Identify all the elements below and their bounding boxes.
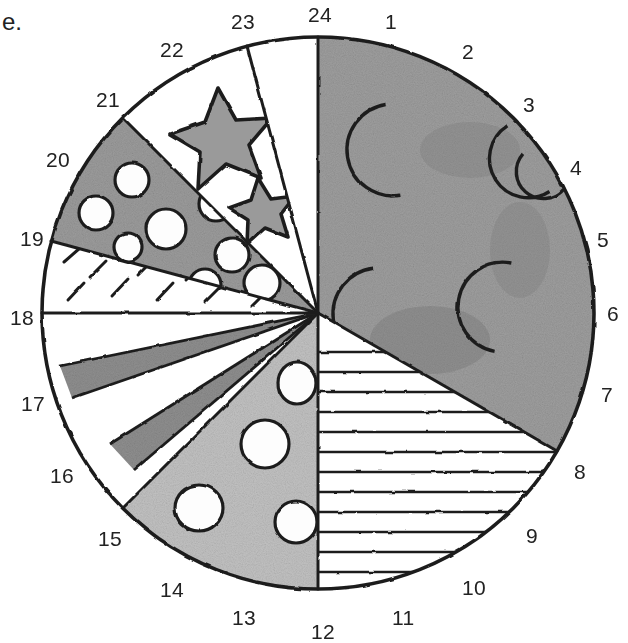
tick-label-3: 3 [523,93,535,117]
tick-label-22: 22 [160,38,184,62]
tick-label-9: 9 [526,524,538,548]
tick-label-24: 24 [308,3,332,27]
tick-label-10: 10 [462,576,486,600]
tick-label-7: 7 [601,383,613,407]
dot-icon [241,420,289,468]
tick-label-12: 12 [311,620,335,643]
tick-label-20: 20 [46,148,70,172]
tick-label-2: 2 [462,40,474,64]
tick-label-5: 5 [597,228,609,252]
tick-label-14: 14 [160,578,184,602]
tick-label-8: 8 [574,460,586,484]
dot-icon [278,362,316,404]
tick-label-15: 15 [98,527,122,551]
dot-icon [115,163,149,197]
tick-label-16: 16 [50,464,74,488]
dot-icon [79,196,113,230]
tick-label-18: 18 [10,306,34,330]
tick-label-1: 1 [385,10,397,34]
tick-label-4: 4 [570,156,582,180]
dot-icon [146,209,186,249]
tick-label-17: 17 [21,392,45,416]
dot-icon [275,501,317,543]
tick-label-21: 21 [96,88,120,112]
dot-icon [215,238,249,272]
tick-label-11: 11 [392,606,414,630]
tick-label-19: 19 [20,227,44,251]
dot-icon [114,233,142,261]
dot-icon [175,485,223,531]
tick-label-13: 13 [232,606,256,630]
tick-label-23: 23 [231,10,255,34]
tick-label-6: 6 [607,302,619,326]
